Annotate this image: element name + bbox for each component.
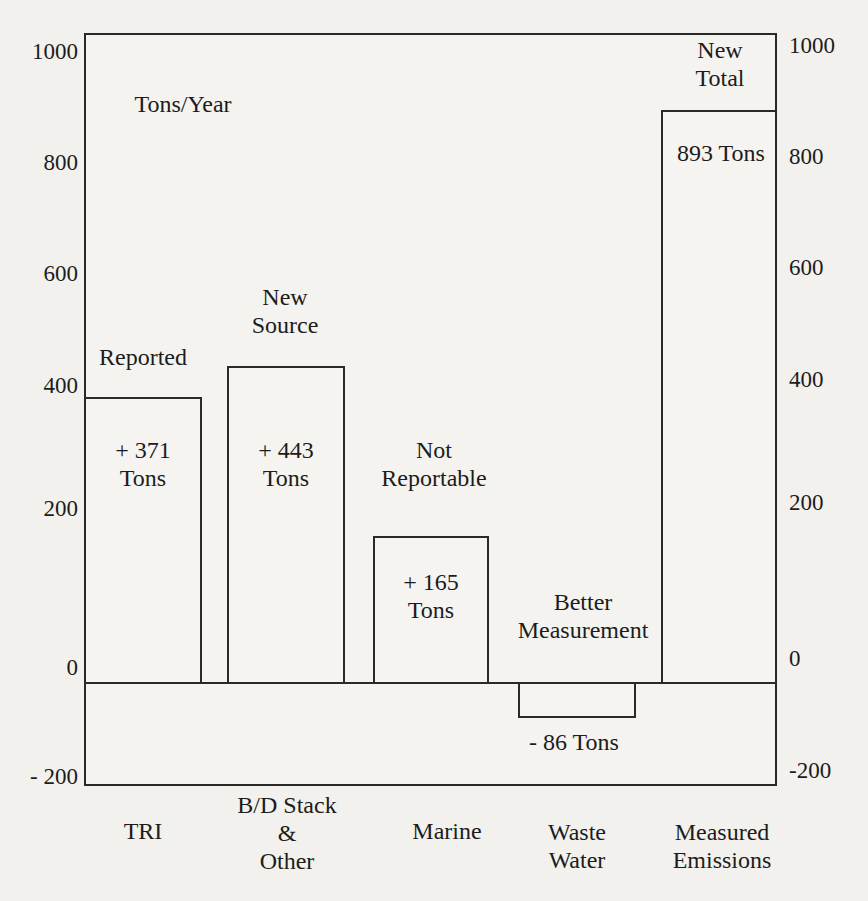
right-axis-tick-neg200: -200 (789, 757, 868, 785)
right-axis-tick-600: 600 (789, 254, 868, 282)
left-axis-tick-800: 800 (0, 149, 78, 177)
left-axis-tick-0: 0 (0, 654, 78, 682)
value-label-bd-stack-other: + 443 Tons (206, 436, 366, 492)
left-axis-tick-400: 400 (0, 372, 78, 400)
right-axis-tick-0: 0 (789, 645, 868, 673)
chart-title: Tons/Year (103, 90, 263, 118)
value-label-tri: + 371 Tons (63, 436, 223, 492)
x-label-tri: TRI (63, 817, 223, 845)
value-label-marine: + 165 Tons (351, 568, 511, 624)
right-axis-tick-200: 200 (789, 489, 868, 517)
bar-bd-stack-other (227, 366, 345, 684)
scanned-bar-chart-figure: Tons/Year 1000 800 600 400 200 0 - 200 1… (0, 0, 868, 901)
left-axis-tick-600: 600 (0, 260, 78, 288)
x-label-measured-emissions: Measured Emissions (642, 818, 802, 874)
x-label-waste-water: Waste Water (497, 818, 657, 874)
left-axis-tick-1000: 1000 (0, 38, 78, 66)
right-axis-tick-400: 400 (789, 366, 868, 394)
bar-measured-emissions (661, 110, 777, 684)
bar-waste-water (518, 682, 636, 718)
value-label-waste-water: - 86 Tons (494, 728, 654, 756)
left-axis-tick-200: 200 (0, 495, 78, 523)
annotation-reported: Reported (63, 343, 223, 371)
left-axis-tick-neg200: - 200 (0, 763, 78, 791)
annotation-new-source: New Source (205, 283, 365, 339)
annotation-not-reportable: Not Reportable (354, 436, 514, 492)
zero-baseline (84, 682, 777, 684)
annotation-better-measurement: Better Measurement (488, 588, 678, 644)
right-axis-tick-1000: 1000 (789, 32, 868, 60)
annotation-new-total: New Total (640, 36, 800, 92)
value-label-measured-emissions: 893 Tons (641, 139, 801, 167)
x-label-bd-stack-other: B/D Stack & Other (207, 791, 367, 875)
